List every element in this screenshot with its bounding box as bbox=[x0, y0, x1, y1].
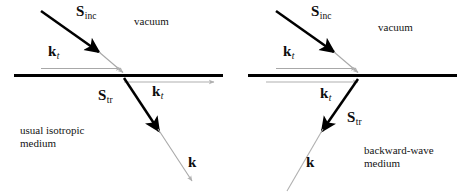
right-incident-poynting-label: Sinc bbox=[311, 4, 331, 21]
right-kt-lower-subscript: t bbox=[329, 94, 332, 104]
left-s-tr-symbol: S bbox=[98, 87, 106, 103]
right-s-inc-symbol: S bbox=[311, 3, 319, 19]
right-medium-label: backward-wave medium bbox=[364, 144, 434, 169]
right-medium-label-line2: medium bbox=[364, 157, 434, 170]
left-transmitted-poynting-label: Str bbox=[98, 88, 113, 105]
left-s-tr-subscript: tr bbox=[107, 96, 113, 106]
left-s-inc-subscript: inc bbox=[85, 12, 97, 22]
left-kt-lower-subscript: t bbox=[161, 92, 164, 102]
right-s-tr-symbol: S bbox=[347, 109, 355, 125]
left-kt-upper-subscript: t bbox=[57, 52, 60, 62]
left-medium-label-line1: usual isotropic bbox=[20, 124, 84, 137]
right-wavevector-ray bbox=[287, 129, 323, 191]
right-vacuum-label: vacuum bbox=[378, 22, 413, 33]
left-tangential-k-upper-label: kt bbox=[48, 44, 59, 61]
right-kt-lower-symbol: k bbox=[320, 85, 328, 101]
left-wavevector-label: k bbox=[188, 155, 196, 170]
left-kt-upper-symbol: k bbox=[48, 43, 56, 59]
left-medium-label-line2: medium bbox=[20, 137, 84, 150]
left-s-inc-symbol: S bbox=[76, 3, 84, 19]
right-incident-ray-extension bbox=[334, 52, 358, 73]
left-tangential-k-lower-label: kt bbox=[152, 84, 163, 101]
right-tangential-k-upper-label: kt bbox=[283, 44, 294, 61]
left-incident-poynting-label: Sinc bbox=[76, 4, 96, 21]
right-kt-upper-subscript: t bbox=[292, 52, 295, 62]
left-vacuum-label: vacuum bbox=[134, 16, 169, 27]
right-s-tr-subscript: tr bbox=[356, 118, 362, 128]
left-medium-label: usual isotropic medium bbox=[20, 124, 84, 149]
left-kt-lower-symbol: k bbox=[152, 83, 160, 99]
right-wavevector-label: k bbox=[306, 155, 314, 170]
right-tangential-k-lower-label: kt bbox=[320, 86, 331, 103]
right-s-inc-subscript: inc bbox=[320, 12, 332, 22]
left-incident-ray-extension bbox=[99, 52, 123, 73]
figure-canvas: Sinc vacuum kt Str kt k usual isotropic … bbox=[0, 0, 471, 196]
right-transmitted-poynting-label: Str bbox=[347, 110, 362, 127]
right-kt-upper-symbol: k bbox=[283, 43, 291, 59]
right-medium-label-line1: backward-wave bbox=[364, 144, 434, 157]
left-wavevector-ray bbox=[158, 129, 192, 181]
